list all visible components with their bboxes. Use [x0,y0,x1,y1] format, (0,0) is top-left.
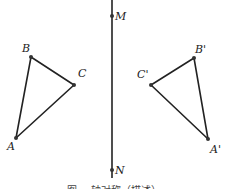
vertex-c [72,83,76,87]
point-m [110,14,114,18]
vertex-b-prime [192,56,196,60]
label-b: B [21,42,30,55]
figure-caption: 图— 轴对称（描述） [67,184,160,189]
triangle-abc [16,57,74,138]
label-m: M [114,10,127,23]
point-n [110,168,114,172]
vertex-c-prime [149,83,153,87]
label-c-prime: C' [137,68,148,81]
triangle-reflected-vertices: A'B'C' [137,43,221,156]
label-a-prime: A' [209,143,221,156]
vertex-a-prime [206,137,210,141]
triangle-a-prime-b-prime-c-prime [151,58,208,139]
label-b-prime: B' [194,43,206,56]
vertex-b [29,55,33,59]
reflection-diagram: M N ABC A'B'C' 图— 轴对称（描述） [0,0,228,189]
label-a: A [6,140,15,153]
label-c: C [78,67,87,80]
label-n: N [114,164,125,177]
